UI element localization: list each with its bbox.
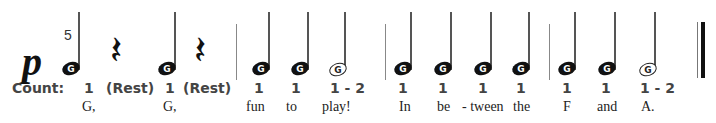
barline bbox=[236, 24, 237, 80]
lyric: - tween bbox=[462, 99, 504, 115]
barline bbox=[549, 24, 550, 80]
lyric: G, bbox=[82, 99, 96, 115]
count-value: 1 bbox=[398, 80, 408, 96]
lyric: and bbox=[597, 99, 617, 115]
count-value: (Rest) bbox=[106, 80, 154, 96]
lyric: play! bbox=[322, 99, 351, 115]
note-quarter: G bbox=[289, 8, 315, 78]
final-barline-thin bbox=[697, 22, 698, 78]
lyric: F bbox=[563, 99, 571, 115]
note-quarter: G bbox=[432, 8, 458, 78]
lyric: G, bbox=[163, 99, 177, 115]
count-value: 1 bbox=[254, 80, 264, 96]
note-quarter: G bbox=[156, 8, 182, 78]
lyric: the bbox=[513, 99, 530, 115]
count-value: 1 bbox=[291, 80, 301, 96]
final-barline-thick bbox=[701, 22, 705, 78]
quarter-rest-icon: 𝄽 bbox=[194, 30, 206, 70]
lyric: In bbox=[399, 99, 411, 115]
lyric: A. bbox=[641, 99, 655, 115]
note-quarter: G bbox=[510, 8, 536, 78]
lyric: to bbox=[286, 99, 297, 115]
note-quarter: G bbox=[250, 8, 276, 78]
note-quarter: G bbox=[596, 8, 622, 78]
count-value: (Rest) bbox=[183, 80, 231, 96]
count-value: 1 - 2 bbox=[330, 80, 365, 96]
dynamic-marking-piano: p bbox=[22, 42, 42, 82]
barline bbox=[385, 24, 386, 80]
count-value: 1 bbox=[562, 80, 572, 96]
note-half: G bbox=[326, 8, 352, 78]
count-value: 1 bbox=[84, 80, 94, 96]
count-label: Count: bbox=[12, 80, 64, 96]
count-value: 1 - 2 bbox=[640, 80, 675, 96]
count-value: 1 bbox=[516, 80, 526, 96]
lyric: be bbox=[437, 99, 450, 115]
lyric: fun bbox=[246, 99, 265, 115]
note-quarter: G bbox=[556, 8, 582, 78]
note-half: G bbox=[636, 8, 662, 78]
count-value: 1 bbox=[438, 80, 448, 96]
count-value: 1 bbox=[165, 80, 175, 96]
count-value: 1 bbox=[478, 80, 488, 96]
count-value: 1 bbox=[601, 80, 611, 96]
quarter-rest-icon: 𝄽 bbox=[110, 30, 122, 70]
note-quarter: G bbox=[472, 8, 498, 78]
note-quarter: G bbox=[60, 8, 86, 78]
note-quarter: G bbox=[392, 8, 418, 78]
